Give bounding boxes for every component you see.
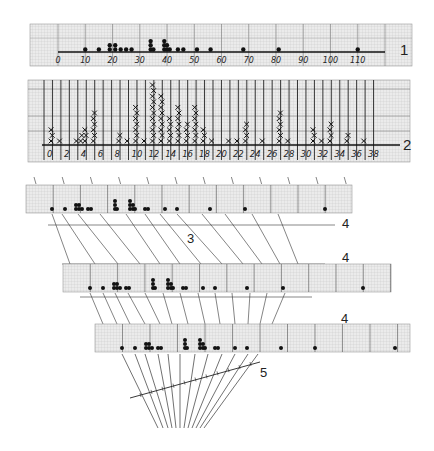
x-tick-label: 40 xyxy=(162,56,172,65)
x-tick-label: 36 xyxy=(351,149,362,159)
panel-1-label: 1 xyxy=(400,41,408,58)
data-dot xyxy=(181,47,185,51)
data-dot xyxy=(89,207,93,211)
x-tick-label: 6 xyxy=(98,149,104,159)
data-dot xyxy=(113,199,117,203)
panel-3-step-label: 3 xyxy=(187,231,194,246)
data-dot xyxy=(323,207,327,211)
data-dot xyxy=(184,286,188,290)
panel-3b-width-label: 4 xyxy=(342,250,349,265)
data-dot xyxy=(159,346,163,350)
data-dot xyxy=(80,207,84,211)
data-dot xyxy=(163,207,167,211)
data-dot xyxy=(171,286,175,290)
data-dot xyxy=(165,43,169,47)
x-tick-label: 38 xyxy=(368,149,379,159)
data-dot xyxy=(146,207,150,211)
data-dot xyxy=(118,47,122,51)
data-dot xyxy=(175,207,179,211)
data-dot xyxy=(393,346,397,350)
data-dot xyxy=(243,207,247,211)
data-dot xyxy=(77,203,81,207)
data-dot xyxy=(241,47,245,51)
x-tick-label: 50 xyxy=(189,56,199,65)
x-tick-label: 12 xyxy=(148,149,159,159)
data-dot xyxy=(131,203,135,207)
data-dot xyxy=(148,43,152,47)
tally-histogram-panel-2: 02468101214161820222426283032343638 2 xyxy=(28,80,411,162)
data-dot xyxy=(151,278,155,282)
data-dot xyxy=(279,346,283,350)
data-dot xyxy=(151,282,155,286)
data-dot xyxy=(127,286,131,290)
data-dot xyxy=(281,286,285,290)
data-dot xyxy=(356,47,360,51)
x-tick-label: 110 xyxy=(350,56,365,65)
binned-strip-panel-3: 4 3 4 xyxy=(26,177,352,265)
data-dot xyxy=(50,207,54,211)
data-dot xyxy=(185,346,189,350)
data-dot xyxy=(88,286,92,290)
data-dot xyxy=(183,338,187,342)
x-tick-label: 18 xyxy=(199,149,210,159)
panel-5-shift-label: 5 xyxy=(260,365,267,380)
x-tick-label: 10 xyxy=(132,149,143,159)
data-dot xyxy=(133,207,137,211)
data-dot xyxy=(115,207,119,211)
data-dot xyxy=(216,346,220,350)
data-dot xyxy=(148,39,152,43)
x-tick-label: 14 xyxy=(165,149,176,159)
data-dot xyxy=(115,282,119,286)
data-dot xyxy=(83,47,87,51)
x-tick-label: 20 xyxy=(107,56,117,65)
data-dot xyxy=(168,47,172,51)
data-dot xyxy=(208,47,212,51)
x-tick-label: 28 xyxy=(284,149,295,159)
x-tick-label: 20 xyxy=(216,149,227,159)
data-dot xyxy=(153,286,157,290)
data-dot xyxy=(198,338,202,342)
x-tick-label: 34 xyxy=(334,149,345,159)
data-dot xyxy=(124,47,128,51)
data-dot xyxy=(129,47,133,51)
data-dot xyxy=(63,207,67,211)
data-dot xyxy=(213,286,217,290)
x-tick-label: 22 xyxy=(233,149,244,159)
x-tick-label: 0 xyxy=(55,56,60,65)
x-tick-label: 0 xyxy=(47,149,52,159)
data-dot xyxy=(108,43,112,47)
data-dot xyxy=(183,342,187,346)
data-dot xyxy=(133,346,137,350)
data-dot xyxy=(97,47,101,51)
data-dot xyxy=(169,282,173,286)
panel-3-width-label: 4 xyxy=(342,216,349,231)
panel-2-label: 2 xyxy=(403,136,411,153)
x-tick-label: 90 xyxy=(298,56,308,65)
x-tick-label: 100 xyxy=(323,56,338,65)
data-dot xyxy=(118,286,122,290)
data-dot xyxy=(201,286,205,290)
data-dot xyxy=(147,342,151,346)
data-dot xyxy=(166,278,170,282)
x-tick-label: 2 xyxy=(64,149,69,159)
x-tick-label: 8 xyxy=(115,149,121,159)
data-dot xyxy=(162,39,166,43)
data-dot xyxy=(208,207,212,211)
data-dot xyxy=(195,47,199,51)
data-dot xyxy=(113,47,117,51)
x-tick-label: 26 xyxy=(267,149,278,159)
data-dot xyxy=(151,47,155,51)
data-dot xyxy=(113,43,117,47)
x-tick-label: 24 xyxy=(250,149,261,159)
x-tick-label: 16 xyxy=(182,149,193,159)
data-dot xyxy=(245,346,249,350)
data-dot xyxy=(277,47,281,51)
data-dot xyxy=(203,346,207,350)
data-dot xyxy=(101,286,105,290)
data-dot xyxy=(113,203,117,207)
x-tick-label: 60 xyxy=(216,56,226,65)
data-dot xyxy=(176,47,180,51)
histogram-binning-diagram: 0102030405060708090100110 1 024681012141… xyxy=(0,0,434,451)
data-dot xyxy=(120,346,124,350)
data-dot xyxy=(233,346,237,350)
